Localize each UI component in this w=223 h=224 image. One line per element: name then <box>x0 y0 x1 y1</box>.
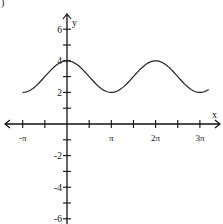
x-axis-label: x <box>212 109 217 120</box>
x-tick-label: π <box>109 133 114 143</box>
cosine-curve <box>23 61 209 93</box>
graph: -ππ2π3π642-2-4-6xy <box>0 0 223 224</box>
y-axis-label: y <box>72 17 77 28</box>
y-tick-label: 4 <box>57 56 62 66</box>
y-tick-label: 2 <box>57 88 62 98</box>
y-tick-label: -6 <box>54 214 62 224</box>
x-tick-label: 2π <box>151 133 161 143</box>
y-tick-label: -4 <box>54 183 62 193</box>
corner-label: ) <box>1 0 4 8</box>
y-tick-label: 6 <box>57 25 62 35</box>
y-tick-label: -2 <box>54 151 62 161</box>
x-tick-label: 3π <box>195 133 205 143</box>
x-tick-label: -π <box>19 133 27 143</box>
